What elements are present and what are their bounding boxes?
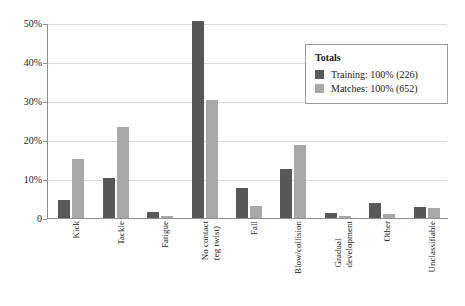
x-axis-tick-label: Blow/collision [293,221,303,274]
bar-matches [294,145,306,219]
bar-training [192,21,204,219]
bar-matches [72,159,84,219]
y-axis-tick-label: 50% [24,19,42,29]
y-axis-tick-label: 10% [24,175,42,185]
bar-training [58,200,70,220]
x-axis-tick-label: Fall [249,221,259,235]
legend-title: Totals [315,52,438,64]
bar-training [369,203,381,219]
y-axis-tick-label: 0 [37,214,42,224]
bar-training [103,178,115,219]
bar-group [192,24,218,219]
bar-group [58,24,84,219]
y-axis-tick-label: 20% [24,136,42,146]
legend-label-training: Training: 100% (226) [331,68,418,81]
legend-item-training: Training: 100% (226) [315,68,438,81]
y-axis-tick-label: 30% [24,97,42,107]
y-axis-tick [43,219,47,220]
bar-group [280,24,306,219]
y-axis-tick-label: 40% [24,58,42,68]
legend-item-matches: Matches: 100% (652) [315,82,438,95]
y-axis-line [47,24,48,219]
x-axis-tick-label: Fatigue [160,221,170,248]
bar-group [236,24,262,219]
x-axis-tick-label: Tackle [116,221,126,245]
bar-training [280,169,292,219]
bar-group [147,24,173,219]
legend-swatch-matches [315,84,324,93]
bar-matches [206,100,218,219]
legend-swatch-training [315,70,324,79]
legend: Totals Training: 100% (226) Matches: 100… [305,44,448,104]
bar-group [103,24,129,219]
x-axis-tick-label: Gradualdevelopment [333,221,354,268]
legend-label-matches: Matches: 100% (652) [331,82,418,95]
x-axis-labels: KickTackleFatigueNo contact(eg twist)Fal… [47,221,447,306]
y-axis-labels: 010%20%30%40%50% [0,24,42,219]
bar-chart: 010%20%30%40%50% KickTackleFatigueNo con… [0,0,465,306]
x-axis-tick-label: Other [382,221,392,242]
x-axis-tick-label: Unclassifiable [427,221,437,272]
bar-training [236,188,248,219]
x-axis-tick-label: Kick [71,221,81,239]
x-axis-line [47,218,448,219]
x-axis-tick-label: No contact(eg twist) [200,221,221,260]
bar-matches [117,127,129,219]
